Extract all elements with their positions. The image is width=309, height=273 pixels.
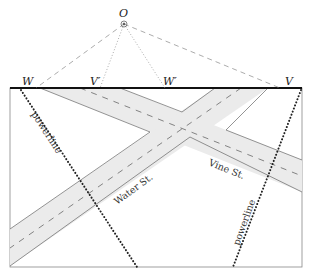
label-o: O [119, 7, 128, 20]
label-w: W [22, 75, 35, 88]
sight-line-v [124, 24, 280, 88]
label-w-prime: W′ [163, 75, 177, 88]
sight-line-v-prime [100, 24, 124, 88]
eye-icon [121, 21, 127, 27]
perspective-diagram: O W V′ W′ V Vine St. Water St. powerline… [0, 0, 309, 273]
sight-line-w [36, 24, 124, 88]
label-v-prime: V′ [90, 75, 101, 88]
sight-line-w-prime [124, 24, 165, 88]
label-v: V [285, 75, 294, 88]
diagram-canvas: O W V′ W′ V Vine St. Water St. powerline… [0, 0, 309, 273]
